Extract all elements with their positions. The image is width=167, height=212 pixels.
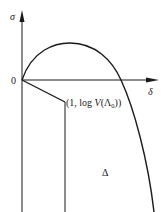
point-label: (1, log V(Λ0)) [66,97,121,109]
delta-axis-arrow-icon [146,78,159,83]
sigma-axis-arrow-icon [20,10,25,22]
delta-label: δ [148,86,153,97]
origin-label: 0 [11,75,16,86]
region-delta-label: Δ [102,167,109,178]
boundary-curve [22,43,154,212]
segment-to-point [22,80,65,102]
diagram-canvas: σ δ 0 (1, log V(Λ0)) Δ [0,0,167,212]
sigma-label: σ [10,11,16,22]
